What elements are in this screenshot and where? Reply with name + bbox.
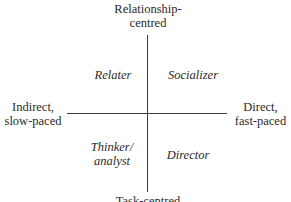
top-axis-label-line2: centred: [97, 16, 199, 30]
quadrant-relater: Relater: [88, 68, 138, 82]
quadrant-thinker-line2: analyst: [84, 154, 140, 168]
quadrant-thinker-line1: Thinker/: [84, 140, 140, 154]
quadrant-director: Director: [158, 148, 218, 162]
left-axis-label-line2: slow-paced: [0, 114, 66, 128]
right-axis-label: Direct, fast-paced: [230, 100, 291, 128]
quadrant-socializer: Socializer: [158, 68, 228, 82]
quadrant-thinker-analyst: Thinker/ analyst: [84, 140, 140, 168]
top-axis-label-line1: Relationship-: [97, 2, 199, 16]
left-axis-label: Indirect, slow-paced: [0, 100, 66, 128]
horizontal-axis-line: [67, 113, 227, 114]
bottom-axis-label: Task-centred: [97, 194, 199, 202]
right-axis-label-line1: Direct,: [230, 100, 291, 114]
right-axis-label-line2: fast-paced: [230, 114, 291, 128]
top-axis-label: Relationship- centred: [97, 2, 199, 30]
left-axis-label-line1: Indirect,: [0, 100, 66, 114]
